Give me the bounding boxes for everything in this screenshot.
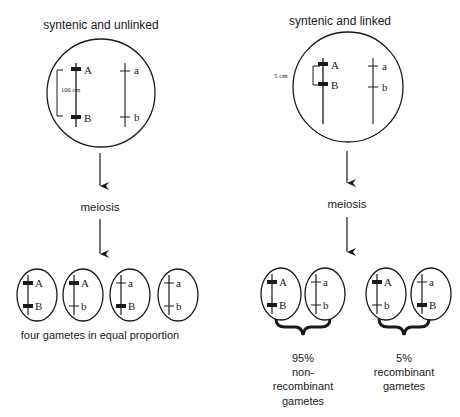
gene-label: a [128,277,133,289]
gamete: ab [305,268,345,320]
allele-marker [372,280,382,284]
gene-label: B [128,300,135,312]
left-distance-bracket [57,70,63,116]
gene-label: b [384,299,390,311]
gamete: ab [158,269,198,321]
gamete: aB [411,268,451,320]
gamete: AB [261,268,301,320]
percent-label: 5% [396,352,412,364]
allele-marker [417,303,427,307]
right-chromosome-dominant: A B [318,58,339,124]
allele-marker [23,304,33,308]
left-chromosome-dominant: A B [71,63,92,127]
right-distance-label: 5 cm [274,72,288,80]
brace-recombinant [379,319,429,335]
right-chromosome-recessive: a b [368,58,388,124]
group-label-line: recombinant [273,380,334,392]
left-title: syntenic and unlinked [43,18,158,32]
gene-label: B [279,299,286,311]
allele-marker [267,280,277,284]
gamete: AB [17,269,57,321]
right-title: syntenic and linked [289,14,391,28]
allele-marker [318,62,328,66]
brace-non-recombinant [276,319,330,335]
gene-label: a [429,276,434,288]
left-panel: syntenic and unlinked 100 cm A B a b mei… [17,18,198,341]
left-distance-label: 100 cm [61,86,80,93]
gamete: Ab [366,268,406,320]
gene-label: b [382,81,388,93]
gene-label: A [279,276,287,288]
group-label-line: gametes [282,395,325,407]
gene-label: b [81,300,87,312]
gene-label: b [176,300,182,312]
recombinant-label: 5% recombinant gametes [374,352,435,392]
right-gametes: ABabAbaB [261,268,451,320]
allele-marker [116,304,126,308]
gene-label: b [323,299,329,311]
percent-label: 95% [292,352,314,364]
gene-label: A [81,277,89,289]
gene-label: B [35,300,42,312]
gene-label: B [429,299,436,311]
allele-marker [267,303,277,307]
group-label-line: recombinant [374,366,435,378]
left-chromosome-recessive: a b [120,63,140,127]
right-meiosis-label: meiosis [328,198,367,210]
left-caption: four gametes in equal proportion [21,329,179,341]
gene-label: A [84,64,92,76]
allele-marker [71,115,81,119]
gene-label: B [84,112,91,124]
left-gametes: ABAbaBab [17,269,198,321]
allele-marker [23,281,33,285]
linkage-diagram: syntenic and unlinked 100 cm A B a b mei… [0,0,460,417]
gene-label: a [323,276,328,288]
allele-marker [71,67,81,71]
gamete: aB [110,269,150,321]
gene-label: a [134,64,139,76]
left-meiosis-label: meiosis [81,201,120,213]
gene-label: b [134,111,140,123]
allele-marker [69,281,79,285]
gene-label: B [331,79,338,91]
right-panel: syntenic and linked 5 cm A B a b meiosis… [261,14,451,407]
left-cell [47,39,155,147]
group-label-line: gametes [383,380,426,392]
gene-label: a [176,277,181,289]
gene-label: A [384,276,392,288]
group-label-line: non- [292,366,314,378]
gene-label: A [35,277,43,289]
allele-marker [318,82,328,86]
gene-label: a [382,60,387,72]
non-recombinant-label: 95% non- recombinant gametes [273,352,334,407]
gene-label: A [331,59,339,71]
gamete: Ab [63,269,103,321]
